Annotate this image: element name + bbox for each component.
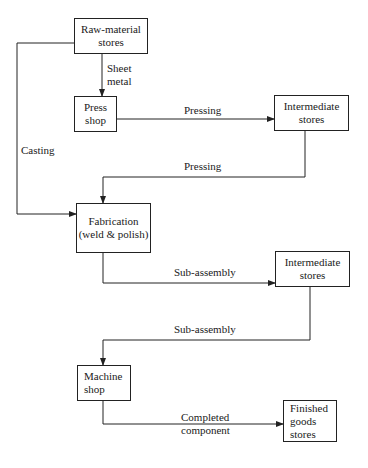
node-label: Press xyxy=(84,101,107,114)
node-label: Intermediate xyxy=(284,100,340,113)
node-press-shop: Press shop xyxy=(74,96,117,132)
node-label: Machine xyxy=(84,370,122,383)
node-label: shop xyxy=(84,383,105,396)
edge-label-completed-component: Completed component xyxy=(181,411,230,437)
node-label: stores xyxy=(290,428,316,441)
edge-label-subassembly-2: Sub-assembly xyxy=(174,323,236,336)
edge-label-line: component xyxy=(181,424,230,437)
node-intermediate-stores-2: Intermediate stores xyxy=(275,251,350,287)
node-label: shop xyxy=(85,114,106,127)
edge-label-subassembly-1: Sub-assembly xyxy=(174,266,236,279)
node-label: Finished xyxy=(290,402,328,415)
node-label: Intermediate xyxy=(285,256,341,269)
connector-lines xyxy=(0,0,368,468)
node-fabrication: Fabrication (weld & polish) xyxy=(76,203,151,253)
edge-label-casting: Casting xyxy=(21,144,55,157)
node-intermediate-stores-1: Intermediate stores xyxy=(274,95,349,131)
edge-casting xyxy=(17,43,76,214)
node-label: Raw-material xyxy=(81,23,141,36)
edge-label-line: Sheet xyxy=(107,62,131,75)
edge-label-pressing-2: Pressing xyxy=(184,160,221,173)
edge-label-line: metal xyxy=(107,75,131,88)
node-raw-material-stores: Raw-material stores xyxy=(74,18,148,54)
node-label: Fabrication xyxy=(88,215,138,228)
node-machine-shop: Machine shop xyxy=(77,365,131,401)
node-label: goods xyxy=(290,415,316,428)
node-label: stores xyxy=(299,113,325,126)
node-label: stores xyxy=(300,269,326,282)
node-finished-goods-stores: Finished goods stores xyxy=(283,400,337,442)
edge-label-pressing-1: Pressing xyxy=(184,104,221,117)
edge-label-line: Completed xyxy=(181,411,230,424)
node-label: stores xyxy=(98,36,124,49)
edge-label-sheet-metal: Sheet metal xyxy=(107,62,131,88)
node-label: (weld & polish) xyxy=(79,228,149,241)
